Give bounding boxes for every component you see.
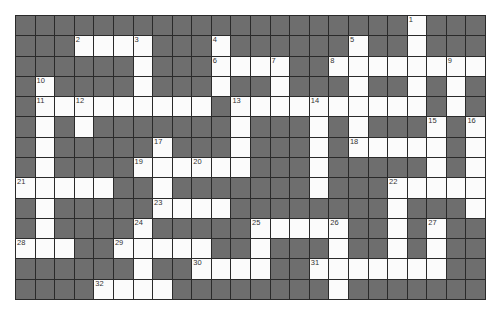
crossword-cell-open[interactable] bbox=[408, 138, 427, 157]
crossword-cell-open[interactable] bbox=[310, 117, 329, 136]
crossword-cell-open[interactable]: 15 bbox=[427, 117, 446, 136]
crossword-cell-open[interactable] bbox=[388, 138, 407, 157]
crossword-cell-open[interactable] bbox=[251, 57, 270, 76]
crossword-cell-open[interactable] bbox=[310, 158, 329, 177]
crossword-cell-open[interactable] bbox=[231, 138, 250, 157]
crossword-cell-open[interactable] bbox=[36, 138, 55, 157]
crossword-cell-open[interactable] bbox=[94, 36, 113, 55]
crossword-cell-open[interactable]: 16 bbox=[466, 117, 485, 136]
crossword-cell-open[interactable] bbox=[192, 239, 211, 258]
crossword-cell-open[interactable] bbox=[153, 280, 172, 299]
crossword-cell-open[interactable]: 28 bbox=[16, 239, 35, 258]
crossword-cell-open[interactable] bbox=[231, 117, 250, 136]
crossword-cell-open[interactable] bbox=[290, 219, 309, 238]
crossword-cell-open[interactable] bbox=[466, 57, 485, 76]
crossword-cell-open[interactable] bbox=[466, 199, 485, 218]
crossword-cell-open[interactable] bbox=[134, 97, 153, 116]
crossword-cell-open[interactable] bbox=[212, 199, 231, 218]
crossword-cell-open[interactable] bbox=[349, 259, 368, 278]
crossword-cell-open[interactable] bbox=[369, 97, 388, 116]
crossword-cell-open[interactable]: 11 bbox=[36, 97, 55, 116]
crossword-cell-open[interactable]: 31 bbox=[310, 259, 329, 278]
crossword-cell-open[interactable] bbox=[251, 259, 270, 278]
crossword-cell-open[interactable]: 4 bbox=[212, 36, 231, 55]
crossword-cell-open[interactable] bbox=[427, 239, 446, 258]
crossword-cell-open[interactable] bbox=[231, 259, 250, 278]
crossword-cell-open[interactable] bbox=[153, 178, 172, 197]
crossword-cell-open[interactable] bbox=[427, 158, 446, 177]
crossword-cell-open[interactable] bbox=[251, 239, 270, 258]
crossword-cell-open[interactable]: 32 bbox=[94, 280, 113, 299]
crossword-cell-open[interactable]: 12 bbox=[75, 97, 94, 116]
crossword-cell-open[interactable]: 19 bbox=[134, 158, 153, 177]
crossword-cell-open[interactable] bbox=[290, 97, 309, 116]
crossword-cell-open[interactable] bbox=[192, 97, 211, 116]
crossword-cell-open[interactable] bbox=[153, 158, 172, 177]
crossword-cell-open[interactable] bbox=[427, 178, 446, 197]
crossword-cell-open[interactable] bbox=[36, 219, 55, 238]
crossword-cell-open[interactable] bbox=[36, 117, 55, 136]
crossword-cell-open[interactable] bbox=[36, 178, 55, 197]
crossword-cell-open[interactable] bbox=[447, 97, 466, 116]
crossword-cell-open[interactable] bbox=[349, 117, 368, 136]
crossword-cell-open[interactable] bbox=[369, 259, 388, 278]
crossword-cell-open[interactable] bbox=[55, 239, 74, 258]
crossword-cell-open[interactable] bbox=[75, 117, 94, 136]
crossword-cell-open[interactable] bbox=[408, 178, 427, 197]
crossword-cell-open[interactable] bbox=[36, 158, 55, 177]
crossword-cell-open[interactable] bbox=[212, 259, 231, 278]
crossword-cell-open[interactable]: 10 bbox=[36, 77, 55, 96]
crossword-cell-open[interactable]: 24 bbox=[134, 219, 153, 238]
crossword-cell-open[interactable]: 3 bbox=[134, 36, 153, 55]
crossword-cell-open[interactable] bbox=[153, 97, 172, 116]
crossword-cell-open[interactable] bbox=[173, 199, 192, 218]
crossword-cell-open[interactable] bbox=[75, 178, 94, 197]
crossword-cell-open[interactable] bbox=[408, 97, 427, 116]
crossword-cell-open[interactable] bbox=[134, 259, 153, 278]
crossword-cell-open[interactable] bbox=[55, 97, 74, 116]
crossword-cell-open[interactable] bbox=[349, 97, 368, 116]
crossword-cell-open[interactable] bbox=[408, 259, 427, 278]
crossword-cell-open[interactable] bbox=[153, 239, 172, 258]
crossword-cell-open[interactable] bbox=[329, 280, 348, 299]
crossword-cell-open[interactable] bbox=[251, 97, 270, 116]
crossword-cell-open[interactable] bbox=[466, 158, 485, 177]
crossword-cell-open[interactable] bbox=[114, 97, 133, 116]
crossword-cell-open[interactable]: 1 bbox=[408, 16, 427, 35]
crossword-cell-open[interactable] bbox=[55, 178, 74, 197]
crossword-cell-open[interactable] bbox=[427, 138, 446, 157]
crossword-cell-open[interactable] bbox=[134, 77, 153, 96]
crossword-cell-open[interactable] bbox=[231, 57, 250, 76]
crossword-cell-open[interactable] bbox=[388, 97, 407, 116]
crossword-cell-open[interactable] bbox=[212, 158, 231, 177]
crossword-cell-open[interactable]: 23 bbox=[153, 199, 172, 218]
crossword-cell-open[interactable]: 17 bbox=[153, 138, 172, 157]
crossword-cell-open[interactable] bbox=[94, 178, 113, 197]
crossword-cell-open[interactable] bbox=[36, 199, 55, 218]
crossword-cell-open[interactable] bbox=[329, 97, 348, 116]
crossword-cell-open[interactable]: 22 bbox=[388, 178, 407, 197]
crossword-cell-open[interactable] bbox=[114, 36, 133, 55]
crossword-cell-open[interactable]: 14 bbox=[310, 97, 329, 116]
crossword-cell-open[interactable] bbox=[427, 259, 446, 278]
crossword-cell-open[interactable]: 5 bbox=[349, 36, 368, 55]
crossword-cell-open[interactable] bbox=[271, 219, 290, 238]
crossword-cell-open[interactable]: 2 bbox=[75, 36, 94, 55]
crossword-cell-open[interactable] bbox=[388, 259, 407, 278]
crossword-cell-open[interactable] bbox=[134, 280, 153, 299]
crossword-cell-open[interactable] bbox=[369, 57, 388, 76]
crossword-cell-open[interactable] bbox=[447, 178, 466, 197]
crossword-cell-open[interactable] bbox=[427, 57, 446, 76]
crossword-cell-open[interactable]: 30 bbox=[192, 259, 211, 278]
crossword-cell-open[interactable] bbox=[231, 158, 250, 177]
crossword-cell-open[interactable]: 18 bbox=[349, 138, 368, 157]
crossword-cell-open[interactable] bbox=[310, 219, 329, 238]
crossword-cell-open[interactable]: 13 bbox=[231, 97, 250, 116]
crossword-cell-open[interactable] bbox=[388, 239, 407, 258]
crossword-cell-open[interactable] bbox=[134, 57, 153, 76]
crossword-cell-open[interactable] bbox=[271, 97, 290, 116]
crossword-cell-open[interactable]: 20 bbox=[192, 158, 211, 177]
crossword-cell-open[interactable]: 25 bbox=[251, 219, 270, 238]
crossword-cell-open[interactable] bbox=[271, 77, 290, 96]
crossword-cell-open[interactable] bbox=[36, 239, 55, 258]
